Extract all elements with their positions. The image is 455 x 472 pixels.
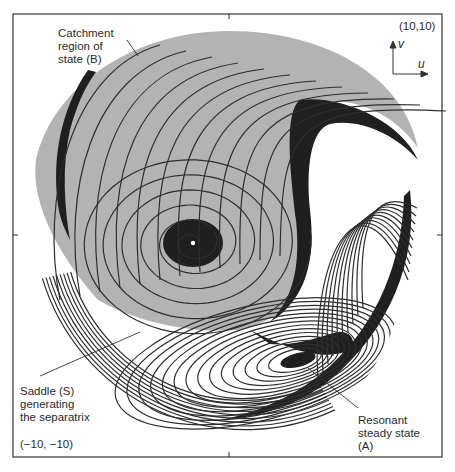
arrow-up-icon — [390, 41, 396, 48]
resonant-label-line: steady state — [358, 427, 420, 440]
steady-state-b-dot — [191, 241, 195, 245]
catchment-label-line: Catchment — [58, 27, 114, 40]
saddle-label-line: the separatrix — [20, 411, 90, 424]
saddle-label-line: Saddle (S) — [20, 385, 90, 398]
corner-label-top-right: (10,10) — [399, 20, 435, 33]
resonant-label-line: Resonant — [358, 414, 420, 427]
axis-label-u: u — [418, 58, 425, 71]
arrow-right-icon — [421, 71, 428, 77]
catchment-label: Catchment region of state (B) — [58, 27, 114, 66]
corner-label-bottom-left: (−10, −10) — [20, 438, 73, 451]
saddle-label: Saddle (S) generating the separatrix — [20, 385, 90, 424]
resonant-label: Resonant steady state (A) — [358, 414, 420, 453]
saddle-label-line: generating — [20, 398, 90, 411]
resonant-label-line: (A) — [358, 440, 420, 453]
catchment-label-line: state (B) — [58, 53, 114, 66]
axis-label-v: v — [398, 38, 404, 51]
catchment-label-line: region of — [58, 40, 114, 53]
